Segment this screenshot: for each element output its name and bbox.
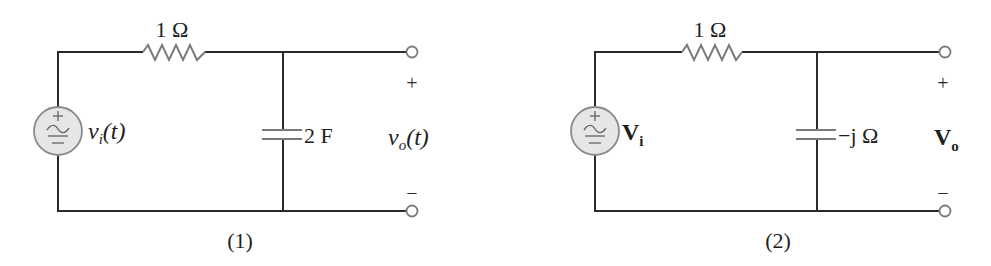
output-terminal-bottom [407,206,418,217]
ac-source-icon [571,107,619,155]
output-label: Vo [934,124,959,154]
wire-left-top [58,52,143,107]
output-label: vo(t) [388,124,429,153]
capacitor-label: 2 F [304,123,333,148]
ac-source-icon [34,107,82,155]
caption-1: (1) [227,228,253,253]
circuit-1: 1 Ω 2 F vi(t) + − vo(t) (1) [34,17,429,253]
caption-2: (2) [765,228,791,253]
output-minus: − [406,182,417,204]
source-label: vi(t) [88,118,125,147]
resistor-label: 1 Ω [156,17,189,42]
circuit-figure: 1 Ω 2 F vi(t) + − vo(t) (1) [0,0,991,266]
output-terminal-top [940,47,951,58]
output-plus: + [937,72,948,94]
wire-left-top [595,52,682,107]
resistor-icon [143,45,205,60]
resistor-icon [682,45,742,60]
output-terminal-bottom [940,206,951,217]
wire-left-bottom [595,155,939,211]
wire-left-bottom [58,155,406,211]
circuit-2: 1 Ω −j Ω Vi + − Vo (2) [571,17,959,253]
output-plus: + [406,72,417,94]
output-terminal-top [407,47,418,58]
resistor-label: 1 Ω [694,17,727,42]
capacitor-label: −j Ω [838,123,878,148]
source-label: Vi [622,119,644,149]
output-minus: − [937,182,948,204]
